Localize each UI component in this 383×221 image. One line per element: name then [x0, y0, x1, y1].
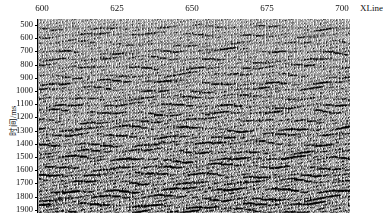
yaxis-tick-label: 900 [7, 73, 33, 82]
yaxis-tick-mark [35, 104, 38, 105]
xaxis-tick-label: 700 [322, 3, 362, 13]
yaxis-tick-label: 500 [7, 20, 33, 29]
xaxis-tick-label: 675 [247, 3, 287, 13]
seismic-trace-canvas [38, 19, 350, 213]
seismic-plot-area [38, 19, 350, 213]
yaxis-tick-mark [35, 91, 38, 92]
yaxis-tick-mark [35, 117, 38, 118]
yaxis-tick-label: 1100 [7, 99, 33, 108]
xaxis-tick-label: 650 [172, 3, 212, 13]
yaxis-tick-label: 800 [7, 60, 33, 69]
yaxis-tick-mark [35, 183, 38, 184]
yaxis-tick-mark [35, 144, 38, 145]
yaxis-tick-mark [35, 131, 38, 132]
yaxis-tick-label: 1600 [7, 165, 33, 174]
yaxis-tick-label: 1700 [7, 178, 33, 187]
yaxis-tick-label: 700 [7, 46, 33, 55]
yaxis-tick-label: 1800 [7, 192, 33, 201]
yaxis-tick-label: 600 [7, 33, 33, 42]
yaxis-tick-mark [35, 25, 38, 26]
yaxis-tick-mark [35, 51, 38, 52]
yaxis-tick-mark [35, 38, 38, 39]
yaxis-tick-label: 1500 [7, 152, 33, 161]
yaxis-tick-label: 1900 [7, 205, 33, 214]
yaxis-tick-mark [35, 157, 38, 158]
yaxis-tick-label: 1000 [7, 86, 33, 95]
yaxis-tick-mark [35, 78, 38, 79]
yaxis-tick-label: 1400 [7, 139, 33, 148]
yaxis-tick-mark [35, 170, 38, 171]
yaxis-tick-label: 1200 [7, 112, 33, 121]
yaxis-tick-mark [35, 65, 38, 66]
xaxis-tick-label: 625 [97, 3, 137, 13]
yaxis-tick-label: 1300 [7, 126, 33, 135]
yaxis-tick-mark [35, 210, 38, 211]
xaxis-tick-label: 600 [22, 3, 62, 13]
yaxis-tick-mark [35, 197, 38, 198]
xaxis-title: XLine [360, 3, 383, 13]
